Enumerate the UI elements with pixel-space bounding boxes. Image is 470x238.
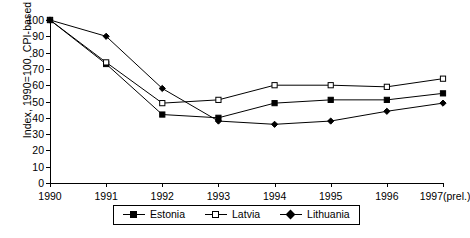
plot-area: 0102030405060708090100 19901991199219931… <box>50 20 443 183</box>
data-point-square <box>328 97 333 102</box>
x-tick-label: 1994 <box>263 191 286 202</box>
data-point-diamond <box>440 100 446 106</box>
y-tick-label: 0 <box>38 178 44 189</box>
y-tick-label: 10 <box>32 161 44 172</box>
data-point-diamond <box>384 108 390 114</box>
data-point-diamond <box>271 121 277 127</box>
data-point-square <box>160 101 165 106</box>
series-layer <box>50 20 444 184</box>
x-tick-label: 1993 <box>207 191 230 202</box>
y-tick-label: 30 <box>32 129 44 140</box>
data-point-diamond <box>328 118 334 124</box>
data-point-square <box>384 84 389 89</box>
data-point-square <box>328 83 333 88</box>
data-point-square <box>272 101 277 106</box>
legend-label-lithuania: Lithuania <box>307 209 350 220</box>
data-point-square <box>104 60 109 65</box>
y-tick-label: 40 <box>32 113 44 124</box>
filled-square-marker-icon <box>123 210 145 219</box>
filled-diamond-marker-icon <box>280 210 302 219</box>
x-tick-label: 1991 <box>94 191 117 202</box>
legend-item-estonia: Estonia <box>123 209 185 220</box>
series-estonia <box>47 17 445 120</box>
x-tick-label: 1990 <box>38 191 61 202</box>
y-tick-label: 90 <box>32 31 44 42</box>
x-tick-label: 1996 <box>375 191 398 202</box>
data-point-square <box>216 97 221 102</box>
y-tick-label: 100 <box>26 15 44 26</box>
legend-label-latvia: Latvia <box>232 209 260 220</box>
data-point-square <box>272 83 277 88</box>
data-point-square <box>160 112 165 117</box>
series-line <box>50 20 443 118</box>
x-tick-label: 1997(prel.) <box>420 191 470 202</box>
series-latvia <box>47 17 445 105</box>
y-tick-label: 20 <box>32 145 44 156</box>
data-point-square <box>440 76 445 81</box>
legend-label-estonia: Estonia <box>150 209 185 220</box>
y-tick-label: 80 <box>32 47 44 58</box>
x-tick-label: 1992 <box>151 191 174 202</box>
legend-item-latvia: Latvia <box>205 209 260 220</box>
chart-legend: Estonia Latvia Lithuania <box>113 205 360 225</box>
y-tick-label: 50 <box>32 96 44 107</box>
open-square-marker-icon <box>205 210 227 219</box>
x-tick-label: 1995 <box>319 191 342 202</box>
y-tick-label: 70 <box>32 64 44 75</box>
data-point-square <box>384 97 389 102</box>
y-tick-label: 60 <box>32 80 44 91</box>
data-point-square <box>440 91 445 96</box>
legend-item-lithuania: Lithuania <box>280 209 350 220</box>
